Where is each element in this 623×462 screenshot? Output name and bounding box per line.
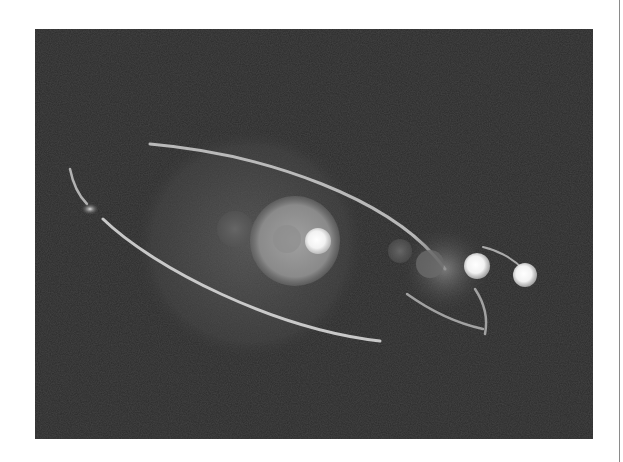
- satellite-shadow-planet: [416, 250, 444, 278]
- disc-shadow-planet: [273, 225, 301, 253]
- left-orbit-node: [81, 203, 99, 215]
- orbital-scene: [35, 29, 593, 439]
- page-edge-rule: [619, 0, 620, 462]
- bright-satellite-1: [464, 253, 490, 279]
- bright-satellite-2: [513, 263, 537, 287]
- inner-faint-planet: [217, 211, 253, 247]
- central-star: [305, 228, 331, 254]
- space-illustration: [35, 29, 593, 439]
